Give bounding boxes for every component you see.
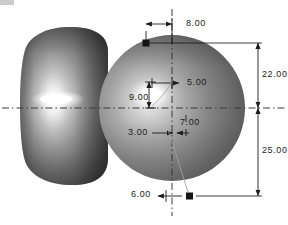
dimension-label-25: 25.00 (262, 146, 288, 155)
dimension-label-8: 8.00 (186, 19, 206, 28)
dimension-label-7: 7.00 (180, 118, 200, 127)
dimension-label-9: 9.00 (129, 93, 149, 102)
dimension-label-22: 22.00 (262, 70, 288, 79)
barrel-solid (20, 27, 108, 185)
dimension-label-6: 6.00 (131, 190, 151, 199)
dimension-label-5: 5.00 (187, 78, 207, 87)
control-point-bottom (186, 193, 193, 200)
cad-drawing-canvas: 8.00 22.00 25.00 5.00 9.00 3.00 7.00 6.0… (0, 0, 288, 225)
dimension-label-3: 3.00 (128, 128, 148, 137)
